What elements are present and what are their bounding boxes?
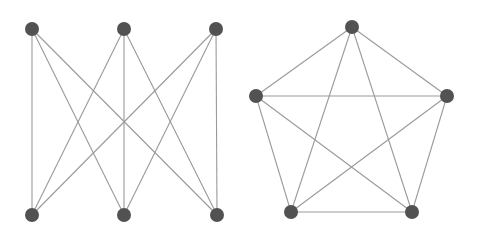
graph-edge (216, 29, 217, 215)
k5-complete-graph (249, 20, 454, 219)
graph-node (210, 208, 224, 222)
graph-edge (352, 27, 412, 212)
graph-edge (256, 27, 352, 96)
graph-node (284, 205, 298, 219)
k5-nodes (249, 20, 454, 219)
graph-node (345, 20, 359, 34)
k5-edges (256, 27, 447, 212)
graph-node (117, 22, 131, 36)
k33-edges (32, 29, 217, 215)
k33-bipartite-graph (25, 22, 224, 222)
graph-edge (256, 96, 412, 212)
graph-node (440, 89, 454, 103)
graph-edge (256, 96, 291, 212)
graph-edge (291, 27, 352, 212)
graph-canvas (0, 0, 478, 240)
graph-edge (412, 96, 447, 212)
graph-node (405, 205, 419, 219)
graph-node (249, 89, 263, 103)
graph-node (117, 208, 131, 222)
graph-edge (291, 96, 447, 212)
graph-edge (352, 27, 447, 96)
graph-node (25, 208, 39, 222)
graph-node (209, 22, 223, 36)
graph-node (25, 22, 39, 36)
